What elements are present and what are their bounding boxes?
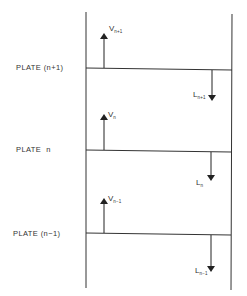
plate-label-n-minus-1: PLATE (n−1) <box>13 229 60 238</box>
vapor-subscript: n <box>113 115 116 120</box>
vapor-label-n: Vn <box>108 110 116 120</box>
vapor-subscript: n+1 <box>114 29 122 34</box>
liquid-subscript: n+1 <box>197 95 205 100</box>
liquid-label-n-minus-1: Ln−1 <box>195 266 208 276</box>
liquid-label-n: Ln <box>196 178 203 188</box>
liquid-label-n-plus-1: Ln+1 <box>193 90 206 100</box>
plate-n-plus-1-line <box>86 68 232 70</box>
column-right-wall <box>231 14 232 290</box>
vapor-label-n-minus-1: Vn−1 <box>108 194 122 204</box>
vapor-subscript: n−1 <box>113 199 121 204</box>
plate-label-n-plus-1: PLATE (n+1) <box>16 63 63 72</box>
plate-label-n: PLATE n <box>16 145 51 154</box>
plate-n-line <box>86 150 231 152</box>
liquid-subscript: n <box>200 183 203 188</box>
liquid-subscript: n−1 <box>199 271 207 276</box>
plate-n-minus-1-line <box>86 233 231 235</box>
vapor-label-n-plus-1: Vn+1 <box>109 24 123 34</box>
